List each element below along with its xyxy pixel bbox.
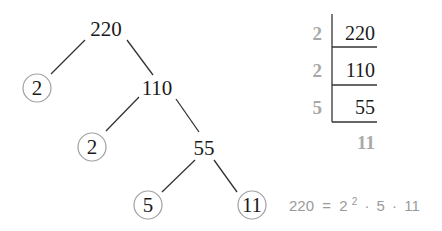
ladder-dividend: 55 <box>355 96 375 118</box>
tree-prime-11: 11 <box>242 193 262 217</box>
ladder-divisor: 5 <box>313 97 323 118</box>
equation-lhs: 220 <box>289 197 314 214</box>
equation-factor-5: 5 <box>377 197 385 214</box>
factorization-equation: 220 = 2 2 · 5 · 11 <box>289 191 420 214</box>
division-ladder: 2 220 2 110 5 55 11 <box>313 14 378 153</box>
ladder-dividend: 220 <box>345 22 375 44</box>
tree-prime-5: 5 <box>143 193 154 217</box>
branch-55-to-5 <box>162 160 195 192</box>
branch-220-to-2 <box>51 40 85 74</box>
equation-base: 2 <box>339 197 347 214</box>
ladder-quotient: 11 <box>357 132 375 153</box>
ladder-divisor: 2 <box>313 60 323 81</box>
tree-node-55: 55 <box>194 136 215 160</box>
factor-tree-canvas: 220 2 110 2 55 5 11 2 220 2 110 5 55 11 … <box>0 0 442 231</box>
tree-prime-2-level1: 2 <box>32 76 43 100</box>
equation-dot: · <box>364 197 369 214</box>
tree-root-220: 220 <box>90 17 122 41</box>
equation-exponent: 2 <box>352 196 358 207</box>
equation-equals: = <box>322 197 331 214</box>
branch-110-to-55 <box>176 99 199 132</box>
ladder-dividend: 110 <box>346 59 375 81</box>
tree-prime-2-level2: 2 <box>87 135 98 159</box>
equation-dot: · <box>392 197 397 214</box>
equation-factor-11: 11 <box>404 197 420 214</box>
tree-node-110: 110 <box>142 76 173 100</box>
prime-factorization-diagram: 220 2 110 2 55 5 11 2 220 2 110 5 55 11 … <box>0 0 442 231</box>
branch-55-to-11 <box>214 160 237 192</box>
branch-110-to-2 <box>106 97 139 131</box>
ladder-divisor: 2 <box>313 23 323 44</box>
branch-220-to-110 <box>127 40 153 75</box>
tree-branches <box>51 40 237 192</box>
